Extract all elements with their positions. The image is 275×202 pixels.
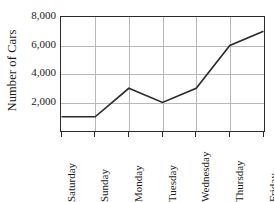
x-axis-tick-label: Wednesday <box>199 138 213 202</box>
x-axis-ticks <box>60 132 265 137</box>
x-axis-tick-label: Friday <box>267 138 275 202</box>
x-axis-tick-label: Tuesday <box>166 138 180 202</box>
y-axis-tick-label: 8,000 <box>22 10 56 21</box>
plot-area <box>60 16 265 132</box>
y-axis-tick-label: 2,000 <box>22 96 56 107</box>
y-axis-tick-labels: 2,0004,0006,0008,000 <box>20 0 56 202</box>
x-axis-tick <box>263 132 264 137</box>
x-axis-tick-label: Saturday <box>65 138 79 202</box>
x-axis-tick-label: Thursday <box>233 138 247 202</box>
x-axis-tick <box>162 132 163 137</box>
x-axis-tick <box>128 132 129 137</box>
x-axis-tick <box>61 132 62 137</box>
line-chart: Number of Cars 2,0004,0006,0008,000 Satu… <box>0 0 274 202</box>
x-axis-tick-label: Monday <box>132 138 146 202</box>
x-axis-tick <box>94 132 95 137</box>
y-axis-title-text: Number of Cars <box>6 29 21 111</box>
x-axis-tick <box>195 132 196 137</box>
plot-svg <box>61 17 264 131</box>
x-axis-tick <box>229 132 230 137</box>
x-axis-tick-labels: SaturdaySundayMondayTuesdayWednesdayThur… <box>60 138 274 202</box>
x-axis-tick-label: Sunday <box>98 138 112 202</box>
horizontal-gridlines <box>61 47 264 104</box>
y-axis-tick-label: 6,000 <box>22 39 56 50</box>
y-axis-tick-label: 4,000 <box>22 67 56 78</box>
